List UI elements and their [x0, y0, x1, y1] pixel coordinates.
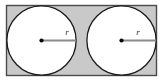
right-radius-label: r [136, 27, 140, 37]
geometry-figure: r r [0, 0, 162, 81]
right-center-dot [119, 38, 123, 42]
left-center-dot [39, 38, 43, 42]
left-radius-label: r [65, 27, 69, 37]
figure-canvas: r r [0, 0, 162, 81]
